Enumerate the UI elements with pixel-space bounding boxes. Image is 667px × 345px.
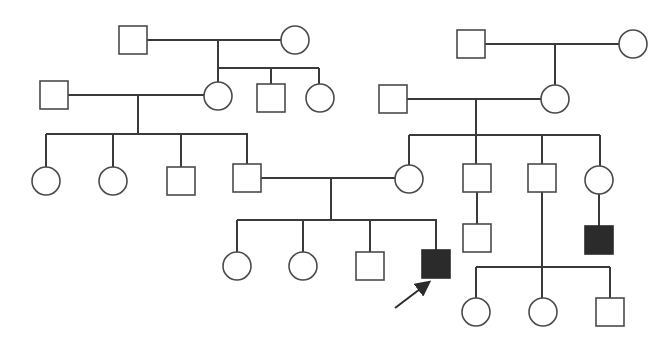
female-circle-icon (99, 167, 127, 195)
female-circle-icon (306, 84, 334, 112)
proband-arrow (395, 283, 428, 308)
male-square-icon (119, 26, 147, 54)
female-circle-icon (395, 165, 423, 193)
pedigree-diagram (0, 0, 667, 345)
female-circle-icon (529, 298, 557, 326)
female-circle-icon (541, 85, 569, 113)
female-circle-icon (585, 166, 613, 194)
male-square-icon (528, 164, 556, 192)
male-square-icon (167, 167, 195, 195)
female-circle-icon (289, 252, 317, 280)
affected-male-square-icon (585, 226, 613, 254)
female-circle-icon (32, 167, 60, 195)
proband-arrow-icon (395, 283, 428, 308)
female-circle-icon (223, 252, 251, 280)
female-circle-icon (619, 30, 647, 58)
pedigree-svg (0, 0, 667, 345)
male-square-icon (257, 84, 285, 112)
female-circle-icon (204, 82, 232, 110)
male-square-icon (233, 164, 261, 192)
male-square-icon (596, 298, 624, 326)
male-square-icon (457, 30, 485, 58)
female-circle-icon (462, 298, 490, 326)
male-square-icon (463, 224, 491, 252)
male-square-icon (40, 81, 68, 109)
affected-male-square-icon (422, 250, 450, 278)
female-circle-icon (281, 26, 309, 54)
male-square-icon (379, 85, 407, 113)
male-square-icon (356, 252, 384, 280)
male-square-icon (463, 164, 491, 192)
